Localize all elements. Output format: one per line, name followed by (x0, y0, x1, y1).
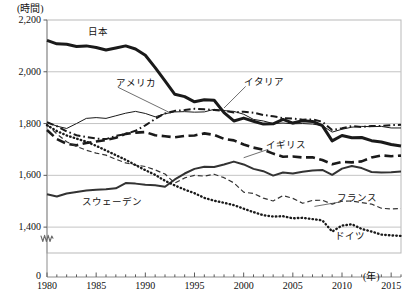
series-label-italy: イタリア (244, 77, 284, 87)
x-tick-label-1985: 1985 (76, 281, 116, 291)
chart-canvas (0, 0, 413, 292)
x-tick-label-2000: 2000 (224, 281, 264, 291)
y-tick-label-2000: 2,000 (1, 67, 41, 77)
x-tick-label-2010: 2010 (322, 281, 362, 291)
y-tick-label-1600: 1,600 (1, 170, 41, 180)
x-tick-label-1995: 1995 (175, 281, 215, 291)
series-label-germany: ドイツ (335, 231, 365, 241)
series-label-united-kingdom: イギリス (266, 140, 306, 150)
y-tick-label-2200: 2,200 (1, 15, 41, 25)
line-chart: (時間)(年)1,4001,6001,8002,0002,20001980198… (0, 0, 413, 292)
y-tick-label-1800: 1,800 (1, 119, 41, 129)
x-tick-label-2015: 2015 (371, 281, 411, 291)
x-tick-label-1990: 1990 (125, 281, 165, 291)
x-tick-label-2005: 2005 (273, 281, 313, 291)
y-tick-label-1400: 1,400 (1, 222, 41, 232)
series-label-france: フランス (337, 193, 377, 203)
y-tick-label-zero: 0 (1, 271, 41, 281)
series-label-sweden: スウェーデン (82, 197, 142, 207)
series-label-japan: 日本 (88, 27, 108, 37)
series-label-united-states: アメリカ (116, 78, 156, 88)
x-tick-label-1980: 1980 (27, 281, 67, 291)
y-axis-unit-label: (時間) (17, 4, 44, 14)
